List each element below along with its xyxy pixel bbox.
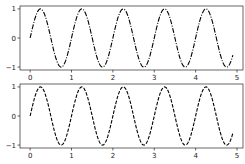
x-tick-label: 1	[69, 152, 73, 160]
data-line	[30, 87, 233, 145]
axes-2: 012345−101	[6, 83, 243, 160]
figure: 012345−101012345−101	[0, 0, 245, 164]
y-tick-label: 0	[12, 113, 16, 121]
axes-frame	[20, 84, 243, 148]
x-tick-label: 1	[69, 74, 73, 82]
y-tick-label: 0	[12, 35, 16, 43]
y-tick-label: −1	[6, 64, 16, 72]
x-tick-label: 4	[193, 74, 198, 82]
x-tick-label: 3	[152, 74, 156, 82]
y-tick-label: 1	[12, 5, 16, 13]
data-line	[30, 9, 233, 67]
axes-1: 012345−101	[6, 5, 243, 82]
x-tick-label: 3	[152, 152, 156, 160]
x-tick-label: 4	[193, 152, 198, 160]
axes-frame	[20, 6, 243, 70]
x-tick-label: 0	[28, 74, 32, 82]
x-tick-label: 2	[111, 74, 115, 82]
x-tick-label: 5	[235, 74, 239, 82]
x-tick-label: 5	[235, 152, 239, 160]
x-tick-label: 0	[28, 152, 32, 160]
y-tick-label: −1	[6, 142, 16, 150]
y-tick-label: 1	[12, 83, 16, 91]
x-tick-label: 2	[111, 152, 115, 160]
